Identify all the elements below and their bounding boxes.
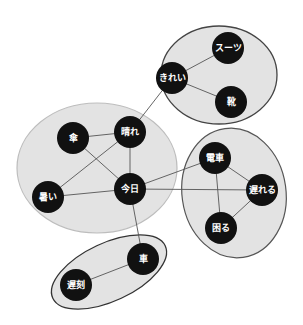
node-label: 傘: [69, 132, 79, 143]
node-label: 困る: [212, 223, 230, 233]
node-label: 車: [139, 253, 148, 264]
node-komaru: 困る: [205, 212, 237, 244]
node-chikoku: 遅刻: [60, 269, 92, 301]
association-diagram: スーツきれい靴傘晴れ暑い今日電車遅れる困る車遅刻: [0, 0, 303, 325]
node-label: 遅刻: [67, 279, 85, 290]
node-kyou: 今日: [114, 173, 146, 205]
node-label: スーツ: [215, 43, 242, 53]
node-label: きれい: [159, 73, 186, 83]
node-label: 靴: [227, 96, 236, 107]
node-label: 今日: [120, 183, 139, 194]
node-label: 遅れる: [249, 185, 276, 195]
node-kasa: 傘: [57, 122, 89, 154]
node-kuruma: 車: [127, 243, 159, 275]
cluster-left: [17, 103, 177, 233]
node-hare: 晴れ: [114, 116, 146, 148]
node-kutsu: 靴: [215, 86, 247, 118]
node-label: 暑い: [38, 192, 57, 202]
node-densha: 電車: [199, 142, 231, 174]
node-kirei: きれい: [156, 62, 188, 94]
node-atsui: 暑い: [32, 181, 64, 213]
node-label: 電車: [206, 152, 224, 163]
node-okureru: 遅れる: [246, 174, 278, 206]
node-label: 晴れ: [121, 126, 139, 137]
node-suit: スーツ: [212, 32, 244, 64]
